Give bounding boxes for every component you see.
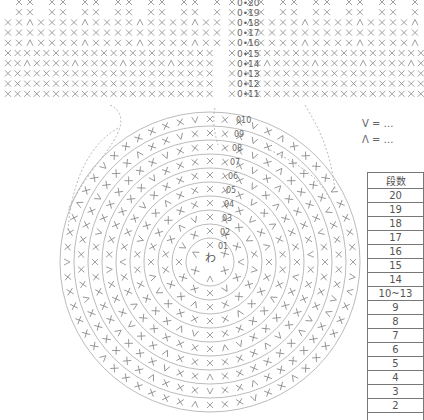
svg-text:010: 010 <box>236 116 251 125</box>
svg-text:06: 06 <box>228 172 238 181</box>
svg-text:08: 08 <box>232 144 242 153</box>
row-table: 段数 2019181716151410~13987654321 <box>367 172 424 420</box>
grid-row-label: 0•13 <box>237 69 260 79</box>
row-table-cell: 3 <box>368 385 424 399</box>
row-table-cell: 20 <box>368 189 424 203</box>
row-table-cell: 16 <box>368 245 424 259</box>
svg-text:01: 01 <box>218 242 228 251</box>
grid-row-label: 0•15 <box>237 49 260 59</box>
svg-text:04: 04 <box>224 200 234 209</box>
row-table-cell: 8 <box>368 315 424 329</box>
row-table-cell: 15 <box>368 259 424 273</box>
grid-row-label: 0•11 <box>237 89 260 99</box>
row-table-cell: 14 <box>368 273 424 287</box>
center-ring-label: わ <box>205 252 216 265</box>
row-table-cell: 7 <box>368 329 424 343</box>
grid-row-label: 0•17 <box>237 28 260 38</box>
top-stitch-grid: 0•200•190•180•170•160•150•140•130•120•11 <box>0 0 424 105</box>
row-table-cell: 9 <box>368 301 424 315</box>
grid-row-label: 0•14 <box>237 59 260 69</box>
svg-text:02: 02 <box>220 228 230 237</box>
grid-row-label: 0•19 <box>237 8 260 18</box>
round-stitch-chart: 010203040506070809010 わ <box>0 100 370 420</box>
row-table-cell: 10~13 <box>368 287 424 301</box>
row-table-cell: 1 <box>368 413 424 420</box>
grid-row-label: 0•18 <box>237 18 260 28</box>
row-table-cell: 4 <box>368 371 424 385</box>
svg-text:09: 09 <box>234 130 244 139</box>
row-table-cell: 17 <box>368 231 424 245</box>
legend-lambda: Λ = … <box>362 134 394 145</box>
grid-row-label: 0•20 <box>237 0 260 8</box>
row-table-cell: 5 <box>368 357 424 371</box>
row-table-cell: 19 <box>368 203 424 217</box>
svg-text:03: 03 <box>222 214 232 223</box>
row-table-cell: 18 <box>368 217 424 231</box>
legend-v: V = … <box>362 118 394 129</box>
row-table-cell: 6 <box>368 343 424 357</box>
grid-row-label: 0•16 <box>237 38 260 48</box>
grid-row-label: 0•12 <box>237 79 260 89</box>
row-table-cell: 2 <box>368 399 424 413</box>
svg-text:07: 07 <box>230 158 240 167</box>
svg-text:05: 05 <box>226 186 236 195</box>
row-table-header: 段数 <box>368 173 424 189</box>
